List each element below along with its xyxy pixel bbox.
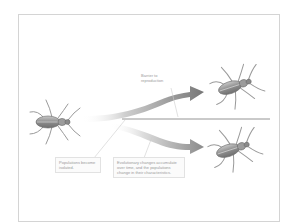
isolated-label: Populations become isolated.: [55, 157, 101, 173]
barrier-label: Barrier to reproduction: [141, 73, 177, 83]
upper-beetle-icon: [206, 57, 267, 114]
lower-beetle-icon: [204, 120, 265, 177]
ancestral-beetle-icon: [30, 100, 80, 144]
arrow-to-upper-population: [82, 86, 204, 122]
arrow-to-lower-population: [110, 123, 204, 154]
accumulate-label: Evolutionary changes accumulate over tim…: [113, 157, 185, 178]
speciation-diagram: [0, 0, 298, 224]
